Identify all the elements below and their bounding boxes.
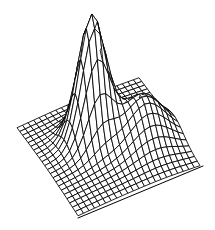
wireframe-surface-canvas [0,0,215,230]
surface-plot-figure [0,0,215,230]
